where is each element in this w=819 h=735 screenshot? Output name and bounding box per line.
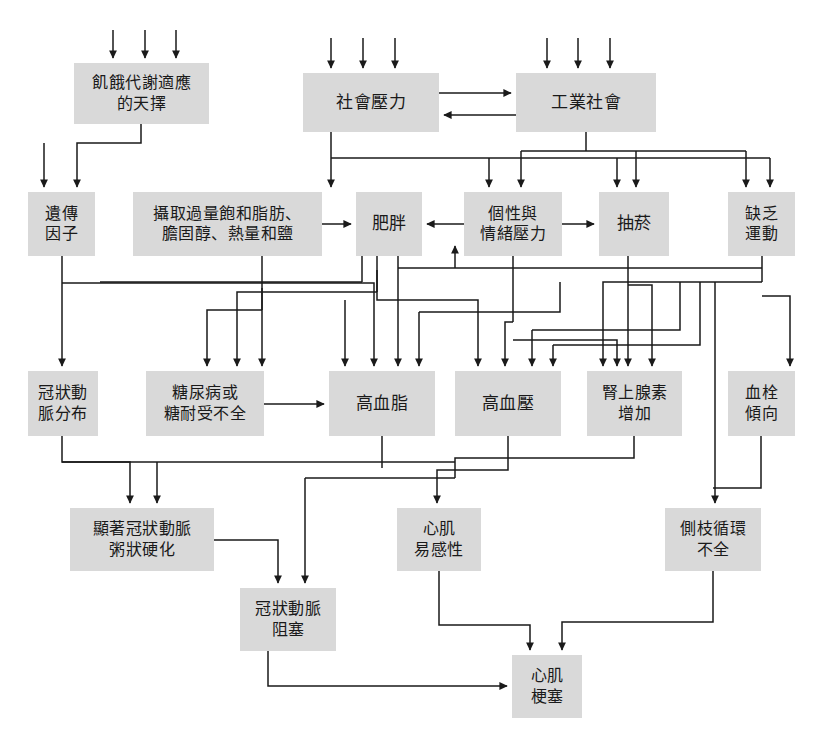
edge-n6-to-n13 [377,270,478,366]
node-smoking[interactable]: 抽菸 [599,192,669,256]
edge-n1-n4 [77,124,141,187]
node-label: 個性與 情緒壓力 [480,204,546,245]
node-label: 攝取過量飽和脂肪、 膽固醇、熱量和鹽 [153,204,302,245]
flowchart-canvas: 飢餓代謝適應 的天擇 社會壓力 工業社會 遺傳 因子 攝取過量飽和脂肪、 膽固醇… [0,0,819,735]
edge-n6-to-n11 [237,292,377,366]
edge-n17-n20 [439,571,530,650]
edge-n5-to-n11 [207,310,262,366]
node-label: 顯著冠狀動脈 粥狀硬化 [93,519,192,560]
edge-n10-trunk [62,436,130,503]
edge-n7-to-n14 [513,340,617,366]
node-personality-emotional-stress[interactable]: 個性與 情緒壓力 [464,192,562,256]
node-label: 腎上腺素 增加 [602,383,668,424]
node-excess-fat-intake[interactable]: 攝取過量飽和脂肪、 膽固醇、熱量和鹽 [133,192,322,256]
node-increased-adrenaline[interactable]: 腎上腺素 增加 [587,371,682,436]
node-myocardial-susceptibility[interactable]: 心肌 易感性 [397,508,481,571]
node-label: 心肌 易感性 [414,519,464,560]
node-label: 高血脂 [356,393,409,415]
edge-n8-bus [628,285,652,366]
edge-n7-to-n13 [505,322,513,366]
node-label: 飢餓代謝適應 的天擇 [92,73,191,114]
node-collateral-circulation-insufficiency[interactable]: 側枝循環 不全 [665,508,761,571]
node-label: 社會壓力 [336,92,406,114]
node-coronary-artery-distribution[interactable]: 冠狀動 脈分布 [28,371,98,436]
node-label: 心肌 梗塞 [531,666,564,707]
node-lack-of-exercise[interactable]: 缺乏 運動 [728,192,795,256]
edge-n14-trunk [455,436,634,478]
node-label: 工業社會 [551,92,621,114]
edge-n13-trunk [437,436,508,503]
edge-n18-n20 [562,571,713,650]
node-industrial-society[interactable]: 工業社會 [516,73,656,132]
node-label: 側枝循環 不全 [680,519,746,560]
edge-n19-n20 [268,651,507,686]
node-label: 缺乏 運動 [745,204,778,245]
node-label: 冠狀動 脈分布 [38,383,88,424]
node-label: 冠狀動脈 阻塞 [255,599,321,640]
node-starvation-metabolic-selection[interactable]: 飢餓代謝適應 的天擇 [74,63,209,124]
edge-n16-n19 [214,540,278,583]
node-coronary-artery-occlusion[interactable]: 冠狀動脈 阻塞 [240,588,336,651]
edge-n15-n18 [713,436,761,488]
node-thrombotic-tendency[interactable]: 血栓 傾向 [728,371,795,436]
edge-n9-bus2 [603,282,762,366]
node-label: 高血壓 [482,393,535,415]
node-label: 抽菸 [617,213,652,235]
node-label: 血栓 傾向 [745,383,778,424]
node-significant-coronary-atherosclerosis[interactable]: 顯著冠狀動脈 粥狀硬化 [70,508,214,571]
node-hyperlipidemia[interactable]: 高血脂 [329,371,435,436]
node-genetic-factors[interactable]: 遺傳 因子 [28,192,95,256]
edge-extra-n13-a-bus [532,282,680,330]
node-label: 肥胖 [372,213,407,235]
edge-extra-n13-b-bus [553,282,700,345]
node-label: 遺傳 因子 [45,204,78,245]
node-social-pressure[interactable]: 社會壓力 [303,73,439,132]
edge-n9-to-n15 [762,296,790,366]
edge-extra-n12-b-bus [419,282,560,312]
node-myocardial-infarction[interactable]: 心肌 梗塞 [512,655,582,718]
node-label: 糖尿病或 糖耐受不全 [164,383,247,424]
node-obesity[interactable]: 肥胖 [356,192,422,256]
node-diabetes-or-glucose-intolerance[interactable]: 糖尿病或 糖耐受不全 [146,371,264,436]
node-hypertension[interactable]: 高血壓 [455,371,561,436]
edge-n4-to-n12-bus [62,283,374,366]
